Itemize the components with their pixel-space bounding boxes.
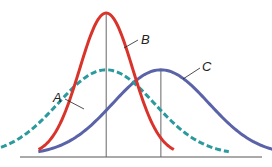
curve-c: [38, 70, 272, 152]
label-b: B: [141, 32, 150, 47]
distribution-diagram: B C A: [0, 0, 272, 167]
leader-line-c: [183, 68, 200, 79]
label-c: C: [202, 59, 212, 74]
curve-a: [0, 70, 229, 152]
curves: [0, 13, 272, 152]
mean-lines: [106, 13, 161, 157]
label-a: A: [52, 90, 62, 105]
